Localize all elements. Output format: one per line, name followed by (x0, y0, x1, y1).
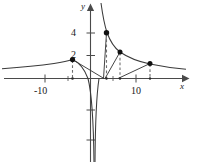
x-axis (4, 75, 190, 82)
curve-left-branch (2, 60, 73, 69)
curve-right-branch (101, 3, 186, 69)
graph-canvas (0, 0, 200, 163)
x-tick-label-10: 10 (131, 86, 141, 96)
y-tick-label-4: 4 (71, 28, 76, 38)
x-tick-label-minus-10: -10 (34, 86, 47, 96)
y-tick-label-2: 2 (71, 50, 76, 60)
graph-figure: 4 2 -10 10 y x (0, 0, 200, 163)
data-points (70, 30, 153, 66)
y-axis-label: y (81, 2, 85, 11)
secant-segments (73, 33, 151, 79)
asymptote-branch (95, 79, 99, 163)
x-axis-label: x (180, 82, 184, 91)
